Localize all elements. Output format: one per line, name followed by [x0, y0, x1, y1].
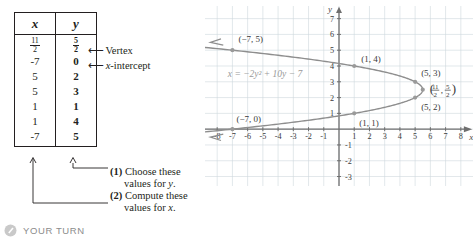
- table-row: 11 2 5 2: [15, 35, 97, 55]
- x-tick-label: -5: [259, 132, 266, 141]
- annotation-vertex-label: Vertex: [105, 45, 132, 56]
- table-row: 1 1: [15, 99, 97, 114]
- x-tick-label: -3: [290, 132, 297, 141]
- curve-arrowhead-upper-icon: [210, 39, 223, 45]
- parabola-curve: [205, 40, 423, 139]
- vertex-label-den-1: 2: [434, 91, 438, 99]
- column-header-y: y: [56, 13, 97, 35]
- y-tick-label: -1: [345, 141, 352, 150]
- data-point: [230, 48, 234, 52]
- x-tick-label: 3: [383, 132, 387, 141]
- fraction-five-halves: 5 2: [73, 37, 79, 54]
- fraction-eleven-halves: 11 2: [30, 37, 40, 54]
- x-axis-label: x: [468, 132, 473, 142]
- arrowhead-up-icon: [30, 158, 36, 164]
- x-tick-label: 1: [352, 132, 356, 141]
- point-label: (5, 3): [421, 68, 441, 78]
- table-row: -7 0: [15, 54, 97, 69]
- point-label: (−7, 0): [236, 114, 261, 124]
- table-body: 11 2 5 2 -7 0 5: [15, 35, 97, 147]
- vertex-label-comma: ,: [441, 85, 443, 95]
- y-tick-label: 2: [330, 94, 334, 103]
- vertex-label-num-1: 11: [432, 83, 439, 91]
- note-1-line2: values for y.: [110, 178, 181, 190]
- left-arrow-icon: ⟵: [88, 44, 103, 56]
- x-tick-label: 2: [367, 132, 371, 141]
- equation-label: x = −2y² + 10y − 7: [227, 69, 304, 79]
- y-tick-label: 6: [330, 30, 334, 39]
- vertex-point: [421, 88, 425, 92]
- note-2-number: (2): [110, 190, 122, 201]
- table-row: 1 4: [15, 114, 97, 129]
- cell-x: -7: [15, 129, 56, 147]
- table-header: x y: [15, 13, 97, 35]
- vertex-label-den-2: 2: [446, 91, 450, 99]
- x-tick-label: -1: [320, 132, 327, 141]
- point-labels: (−7, 5)(1, 4)(5, 3)(5, 2)(1, 1)(−7, 0)(1…: [227, 34, 456, 128]
- vertex-label: (112,52): [430, 81, 456, 99]
- x-tick-label: -6: [244, 132, 251, 141]
- y-tick-label: -2: [345, 157, 352, 166]
- cell-x: 1: [15, 114, 56, 129]
- data-point: [413, 80, 417, 84]
- annotation-x-intercept-label: -intercept: [110, 60, 150, 71]
- annotation-x-intercept: ⟵ x-intercept: [88, 59, 151, 72]
- table-row: 5 2: [15, 69, 97, 84]
- y-tick-label: 5: [330, 46, 334, 55]
- note-2-line2: values for x.: [110, 202, 188, 214]
- y-tick-label: -3: [345, 173, 352, 182]
- column-header-x: x: [15, 13, 56, 35]
- note-2-line1: Compute these: [125, 190, 188, 201]
- vertex-label-num-2: 5: [446, 83, 450, 91]
- x-tick-label: 6: [428, 132, 432, 141]
- y-tick-label: 7: [330, 15, 334, 24]
- y-axis-label: y: [327, 6, 332, 14]
- y-axis-arrowhead-icon: [336, 7, 342, 13]
- cell-y: 1: [56, 99, 97, 114]
- note-2-line2-post: .: [173, 202, 176, 213]
- cell-y: 3: [56, 84, 97, 99]
- cell-x: 11 2: [15, 35, 56, 55]
- x-tick-label: 4: [398, 132, 402, 141]
- your-turn-block: YOUR TURN: [4, 224, 85, 237]
- figure-root: x y 11 2 5 2: [0, 0, 473, 244]
- point-label: (1, 1): [359, 118, 379, 128]
- cell-x: 1: [15, 99, 56, 114]
- arrowhead-up-icon: [70, 158, 76, 164]
- cell-y: 5: [56, 129, 97, 147]
- x-tick-label: 8: [459, 132, 463, 141]
- data-point: [352, 64, 356, 68]
- data-point: [352, 111, 356, 115]
- x-tick-label: 7: [444, 132, 448, 141]
- table-row: -7 5: [15, 129, 97, 147]
- leader-y-column: [73, 163, 108, 168]
- annotation-vertex: ⟵ Vertex: [88, 44, 133, 57]
- data-point: [230, 127, 234, 131]
- x-tick-label: -2: [305, 132, 312, 141]
- note-2: (2) Compute these values for x.: [110, 190, 188, 214]
- pencil-circle-icon: [4, 224, 17, 237]
- cell-x: -7: [15, 54, 56, 69]
- point-label: (−7, 5): [238, 34, 263, 44]
- values-table: x y 11 2 5 2: [14, 12, 97, 147]
- parabola-graph: xy -8-7-6-5-4-3-2-112345678-3-2-11234567…: [205, 6, 473, 186]
- cell-x: 5: [15, 69, 56, 84]
- y-tick-label: 4: [330, 62, 334, 71]
- note-1-line2-pre: values for: [124, 178, 168, 189]
- x-tick-label: -7: [229, 132, 236, 141]
- point-label: (1, 4): [361, 54, 381, 64]
- note-1-line2-post: .: [173, 178, 176, 189]
- your-turn-label: YOUR TURN: [23, 225, 85, 236]
- cell-y: 4: [56, 114, 97, 129]
- y-tick-label: 3: [330, 78, 334, 87]
- vertex-label-paren-close: ): [452, 81, 456, 96]
- data-point: [413, 95, 417, 99]
- note-1-line1: Choose these: [125, 166, 181, 177]
- note-2-line2-pre: values for: [124, 202, 168, 213]
- note-1: (1) Choose these values for y.: [110, 166, 181, 190]
- x-tick-label: -4: [275, 132, 282, 141]
- values-table-panel: x y 11 2 5 2: [14, 12, 97, 147]
- table-header-row: x y: [15, 13, 97, 35]
- point-label: (5, 2): [421, 102, 441, 112]
- left-arrow-icon: ⟵: [88, 59, 103, 71]
